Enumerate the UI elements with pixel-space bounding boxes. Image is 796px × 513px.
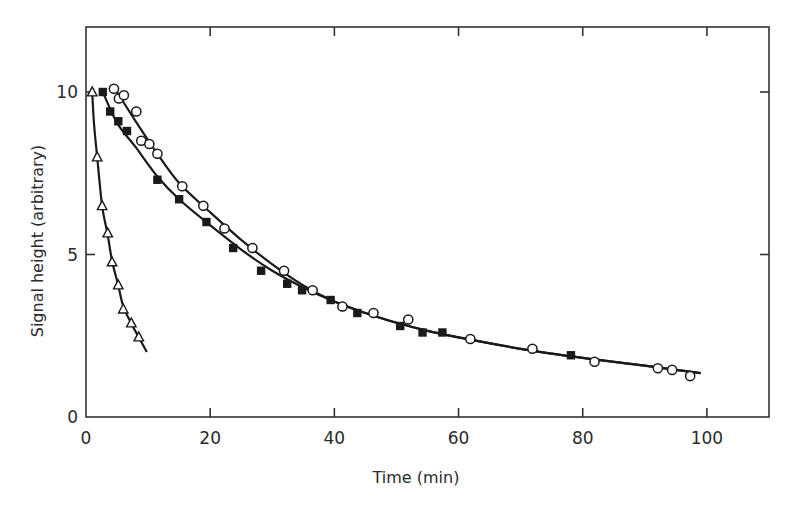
circle-marker (466, 334, 475, 343)
circle-marker (153, 149, 162, 158)
square-marker (202, 218, 210, 226)
triangle-marker (92, 152, 102, 161)
data-markers (87, 84, 694, 381)
plot-border (86, 27, 769, 417)
circle-marker (109, 84, 118, 93)
fit-curves (92, 92, 701, 373)
square-marker (567, 351, 575, 359)
circle-marker (308, 286, 317, 295)
square-marker (175, 195, 183, 203)
circle-marker (686, 371, 695, 380)
circle-marker (404, 315, 413, 324)
triangle-marker (107, 257, 117, 266)
x-tick-label: 80 (572, 428, 594, 448)
square-marker (298, 286, 306, 294)
axis-ticks (86, 27, 769, 417)
circle-marker (279, 266, 288, 275)
square-marker (106, 107, 114, 115)
fit-curve-filled-square (103, 92, 701, 373)
triangle-marker (114, 280, 124, 289)
x-tick-label: 60 (448, 428, 470, 448)
y-tick-label: 5 (67, 245, 78, 265)
square-marker (99, 88, 107, 96)
circle-marker (590, 357, 599, 366)
circle-marker (653, 364, 662, 373)
triangle-marker (119, 304, 129, 313)
square-marker (229, 244, 237, 252)
x-tick-label: 0 (81, 428, 92, 448)
y-tick-label: 0 (67, 407, 78, 427)
circle-marker (220, 224, 229, 233)
x-tick-labels: 020406080100 (81, 428, 724, 448)
x-tick-label: 20 (199, 428, 221, 448)
circle-marker (132, 107, 141, 116)
triangle-marker (97, 201, 107, 210)
square-marker (396, 322, 404, 330)
square-marker (353, 309, 361, 317)
y-axis-title: Signal height (arbitrary) (28, 145, 47, 338)
circle-marker (668, 365, 677, 374)
circle-marker (145, 139, 154, 148)
y-tick-label: 10 (56, 82, 78, 102)
plot-frame (86, 27, 769, 417)
square-marker (326, 296, 334, 304)
square-marker (283, 280, 291, 288)
x-tick-label: 100 (691, 428, 723, 448)
square-marker (418, 328, 426, 336)
chart: 020406080100 0510 Time (min) Signal heig… (0, 0, 796, 513)
circle-marker (178, 182, 187, 191)
circle-marker (119, 91, 128, 100)
circle-marker (528, 344, 537, 353)
square-marker (114, 117, 122, 125)
square-marker (438, 328, 446, 336)
circle-marker (248, 243, 257, 252)
triangle-marker (103, 228, 113, 237)
x-tick-label: 40 (324, 428, 346, 448)
square-marker (257, 267, 265, 275)
fit-curve-open-circle (117, 92, 701, 373)
x-axis-title: Time (min) (372, 468, 460, 487)
circle-marker (369, 308, 378, 317)
circle-marker (338, 302, 347, 311)
square-marker (153, 176, 161, 184)
circle-marker (199, 201, 208, 210)
y-tick-labels: 0510 (56, 82, 78, 427)
square-marker (123, 127, 131, 135)
